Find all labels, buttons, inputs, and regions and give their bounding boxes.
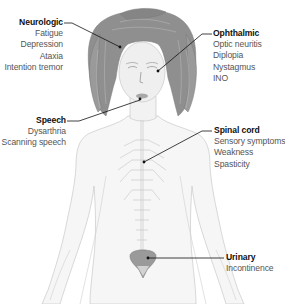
label-speech: Speech Dysarthria Scanning speech — [2, 115, 66, 149]
symptom-item: Nystagmus — [213, 62, 262, 73]
symptom-item: INO — [213, 73, 262, 84]
symptom-item: Ataxia — [4, 51, 63, 62]
symptom-item: Dysarthria — [2, 126, 66, 137]
label-title: Neurologic — [4, 17, 63, 28]
symptom-item: Spasticity — [214, 159, 285, 170]
lips — [136, 93, 148, 98]
symptom-item: Sensory symptoms — [214, 136, 285, 147]
symptom-item: Depression — [4, 39, 63, 50]
symptom-item: Incontinence — [226, 263, 274, 274]
symptom-item: Diplopia — [213, 50, 262, 61]
symptom-item: Optic neuritis — [213, 39, 262, 50]
symptom-item: Fatigue — [4, 28, 63, 39]
label-spinal-cord: Spinal cord Sensory symptoms Weakness Sp… — [214, 125, 285, 170]
symptom-item: Intention tremor — [4, 62, 63, 73]
label-title: Speech — [2, 115, 66, 126]
label-title: Ophthalmic — [213, 28, 262, 39]
label-urinary: Urinary Incontinence — [226, 252, 274, 274]
label-title: Spinal cord — [214, 125, 285, 136]
symptom-item: Weakness — [214, 147, 285, 158]
label-ophthalmic: Ophthalmic Optic neuritis Diplopia Nysta… — [213, 28, 262, 84]
label-title: Urinary — [226, 252, 274, 263]
label-neurologic: Neurologic Fatigue Depression Ataxia Int… — [4, 17, 63, 73]
symptom-item: Scanning speech — [2, 137, 66, 148]
